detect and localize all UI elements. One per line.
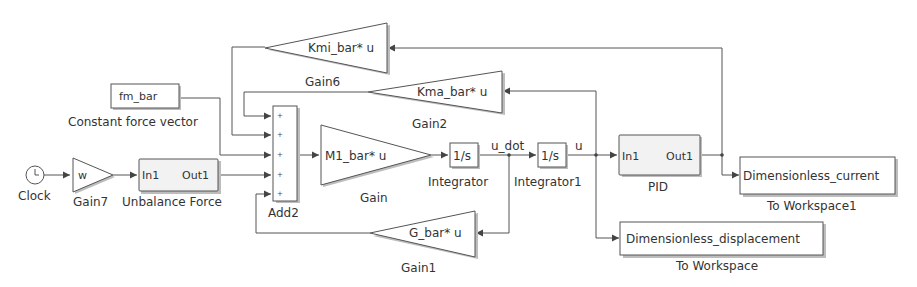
gain6-block[interactable]: Kmi_bar* u Gain6	[265, 23, 390, 89]
clock-label: Clock	[18, 189, 51, 203]
unbalance-in-port: In1	[142, 169, 159, 182]
gain-value: M1_bar* u	[325, 149, 386, 163]
gain1-value: G_bar* u	[409, 226, 462, 240]
gain2-block[interactable]: Kma_bar* u Gain2	[368, 71, 505, 131]
to-workspace1-value: Dimensionless_current	[743, 169, 880, 183]
pid-out-port: Out1	[666, 150, 693, 163]
clock-block[interactable]: Clock	[18, 166, 51, 203]
pid-block[interactable]: In1 Out1 PID	[619, 135, 702, 194]
wire-gain2-to-add2	[244, 92, 368, 116]
integrator-label: Integrator	[428, 175, 488, 189]
integrator-block[interactable]: 1/s Integrator	[428, 143, 488, 189]
constant-force-block[interactable]: fm_bar Constant force vector	[68, 84, 198, 129]
junction-pid	[720, 153, 724, 157]
constant-value: fm_bar	[119, 90, 158, 103]
add2-sign-5: +	[277, 190, 283, 198]
integrator-value: 1/s	[453, 149, 471, 163]
gain7-label: Gain7	[73, 195, 108, 209]
pid-in-port: In1	[622, 150, 639, 163]
to-workspace-block[interactable]: Dimensionless_displacement To Workspace	[620, 222, 826, 273]
signal-label-udot: u_dot	[491, 139, 525, 153]
gain1-block[interactable]: G_bar* u Gain1	[370, 211, 478, 275]
wire-u-to-workspace	[596, 155, 619, 238]
wire-udot-to-gain1	[476, 155, 509, 233]
wire-pid-out	[700, 155, 739, 175]
gain-label: Gain	[360, 191, 388, 205]
gain2-label: Gain2	[412, 117, 447, 131]
to-workspace1-block[interactable]: Dimensionless_current To Workspace1	[740, 157, 898, 213]
add2-sign-4: +	[277, 171, 283, 179]
gain7-value: w	[78, 169, 87, 182]
integrator1-value: 1/s	[541, 149, 559, 163]
gain6-label: Gain6	[305, 75, 340, 89]
signal-label-u: u	[575, 139, 583, 153]
integrator1-label: Integrator1	[514, 175, 582, 189]
simulink-diagram-canvas: Clock w Gain7 In1 Out1 Unbalance Force f…	[0, 0, 917, 287]
add2-sign-3: +	[277, 151, 283, 159]
add2-label: Add2	[268, 206, 299, 220]
unbalance-out-port: Out1	[182, 169, 209, 182]
wire-gain6-to-add2	[232, 47, 271, 135]
unbalance-force-block[interactable]: In1 Out1 Unbalance Force	[122, 159, 222, 209]
to-workspace-label: To Workspace	[675, 259, 758, 273]
constant-label: Constant force vector	[68, 115, 198, 129]
junction-udot	[507, 153, 511, 157]
to-workspace1-label: To Workspace1	[766, 199, 857, 213]
add2-sign-1: +	[277, 112, 283, 120]
junction-u	[594, 153, 598, 157]
gain1-label: Gain1	[401, 261, 436, 275]
gain6-value: Kmi_bar* u	[308, 41, 374, 55]
add2-sign-2: +	[277, 131, 283, 139]
gain2-value: Kma_bar* u	[417, 85, 487, 99]
gain-block[interactable]: M1_bar* u Gain	[321, 125, 434, 205]
add2-block[interactable]: + + + + + Add2	[268, 106, 300, 220]
to-workspace-value: Dimensionless_displacement	[626, 232, 800, 246]
unbalance-force-label: Unbalance Force	[122, 195, 222, 209]
pid-label: PID	[648, 180, 668, 194]
gain7-block[interactable]: w Gain7	[73, 158, 115, 209]
